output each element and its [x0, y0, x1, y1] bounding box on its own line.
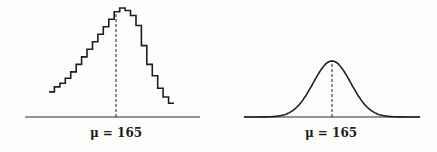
- figure: μ = 165 μ = 165: [0, 0, 437, 152]
- right-panel: μ = 165: [244, 61, 420, 140]
- left-mean-label: μ = 165: [90, 126, 142, 140]
- step-curve: [49, 8, 174, 103]
- left-panel: μ = 165: [25, 8, 200, 140]
- right-mean-label: μ = 165: [305, 126, 357, 140]
